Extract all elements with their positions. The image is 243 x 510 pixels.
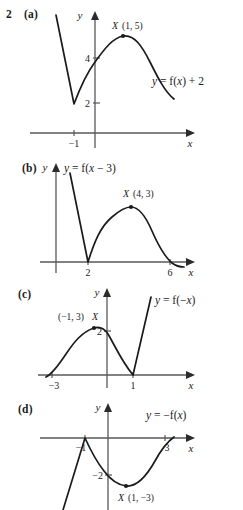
x-axis-arrow-d [186, 434, 195, 442]
point-coords-d: (1, −3) [128, 493, 154, 504]
graph-b: y x 2 6 X (4, 3) y = f(x − 3) [0, 155, 243, 280]
panel-a: (a) y x 4 2 −1 X (1, 5) [0, 0, 243, 155]
y-tick-label-neg2-d: −2 [92, 470, 103, 481]
equation-a: y = f(x) + 2 [151, 75, 204, 88]
point-marker-c [92, 326, 96, 330]
x-axis-arrow-b [186, 258, 195, 266]
equation-a-eq: = f( [157, 75, 177, 88]
y-axis-label-c: y [94, 286, 100, 298]
x-axis-label-a: x [187, 137, 193, 149]
x-tick-label-neg1-a: −1 [69, 138, 80, 149]
point-name-d: X [117, 492, 125, 503]
point-marker-b [129, 205, 133, 209]
point-coords-a: (1, 5) [122, 21, 143, 32]
point-coords-b: (4, 3) [133, 189, 154, 200]
point-coords-c: (−1, 3) [58, 312, 84, 323]
y-axis-arrow-d [104, 403, 112, 412]
curve-c [46, 297, 151, 377]
figure-page: 2 (a) y x 4 2 −1 X (1, 5 [0, 0, 243, 510]
point-name-a: X [111, 20, 119, 31]
point-name-b: X [122, 188, 130, 199]
point-marker-d [124, 484, 128, 488]
equation-c-eq: = f(− [160, 294, 186, 307]
equation-d: y = −f(x) [145, 409, 187, 422]
x-tick-label-neg3-c: −3 [49, 380, 60, 391]
y-tick-label-2-a: 2 [85, 98, 90, 109]
equation-c-tail: ) [192, 294, 196, 307]
y-axis-label-b: y [42, 161, 48, 173]
x-tick-label-6-b: 6 [168, 267, 173, 278]
x-tick-label-2-b: 2 [86, 267, 91, 278]
equation-b-eq: = f( [69, 162, 89, 175]
equation-a-tail: ) + 2 [182, 75, 204, 88]
y-axis-label-d: y [95, 401, 101, 413]
y-axis-arrow-b [52, 163, 60, 172]
y-axis-arrow-a [91, 11, 99, 20]
x-axis-arrow-c [186, 371, 195, 379]
point-marker-a [121, 34, 125, 38]
x-axis-label-c: x [188, 379, 194, 391]
x-axis-label-b: x [188, 266, 194, 278]
equation-b: y = f(x − 3) [63, 162, 116, 175]
y-axis-arrow-c [103, 288, 111, 297]
panel-d: (d) y x −1 3 −2 X (1, −3) y [0, 395, 243, 510]
y-tick-label-4-a: 4 [85, 53, 90, 64]
equation-d-tail: ) [183, 409, 187, 422]
panel-b: (b) y x 2 6 X (4, 3) y = f(x − 3) [0, 155, 243, 280]
panel-c: (c) y x −3 1 2 (−1, 3) X y = [0, 280, 243, 395]
point-name-c: X [91, 311, 99, 322]
x-axis-label-d: x [188, 442, 194, 454]
x-tick-label-1-c: 1 [131, 380, 136, 391]
equation-b-tail: − 3) [94, 162, 116, 175]
graph-a: y x 4 2 −1 X (1, 5) y = f(x) + 2 [0, 0, 243, 155]
x-axis-arrow-a [186, 129, 195, 137]
y-axis-label-a: y [77, 9, 83, 21]
graph-c: y x −3 1 2 (−1, 3) X y = f(−x) [0, 280, 243, 395]
equation-c: y = f(−x) [154, 294, 196, 307]
graph-d: y x −1 3 −2 X (1, −3) y = −f(x) [0, 395, 243, 510]
equation-d-eq: = −f( [151, 409, 178, 422]
